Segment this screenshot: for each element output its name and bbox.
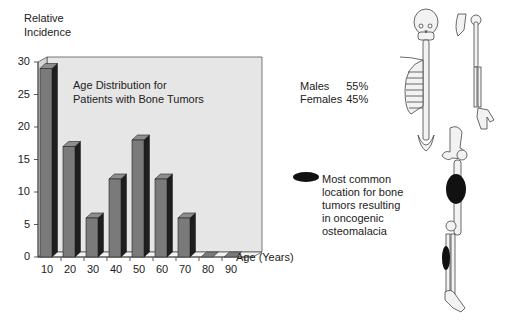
tumor-location-tibia-icon [442, 246, 450, 270]
skeleton-illustration [0, 0, 522, 327]
arm-icon [456, 14, 494, 129]
skull-icon [414, 9, 438, 40]
tumor-location-femur-icon [446, 174, 466, 204]
ribcage-icon [400, 57, 423, 114]
pelvis-icon [442, 127, 467, 160]
